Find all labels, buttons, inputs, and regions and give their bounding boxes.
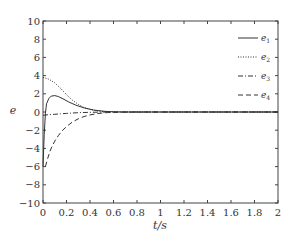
series-e1-line [43,96,278,167]
y-tick-label: −6 [25,161,40,172]
y-tick-label: −2 [25,125,40,136]
series-e4-line [45,112,278,167]
y-tick-label: 2 [34,88,40,99]
y-axis-label: e [10,104,17,117]
x-tick-label: 0 [40,207,46,218]
legend-label-e3: e3 [261,71,270,82]
x-tick-label: 1.6 [223,207,239,218]
y-tick-label: 0 [34,107,40,118]
legend: e1e2e3e4 [238,33,270,101]
y-tick-label: −4 [25,143,40,154]
legend-label-e2: e2 [261,52,270,63]
x-tick-label: 1.8 [247,207,263,218]
x-tick-label: 2 [275,207,281,218]
x-tick-label: 1 [157,207,163,218]
series-layer [43,77,278,166]
legend-label-e1: e1 [261,33,270,44]
x-axis-label: t/s [153,219,167,232]
x-tick-label: 0.4 [82,207,98,218]
x-tick-label: 0.8 [129,207,145,218]
x-tick-label: 0.2 [59,207,75,218]
line-chart: 00.20.40.60.811.21.41.61.82 1086420−2−4−… [0,0,291,244]
x-tick-label: 1.2 [176,207,192,218]
y-tick-label: 10 [27,16,40,27]
x-tick-label: 1.4 [200,207,216,218]
legend-label-e4: e4 [261,90,270,101]
y-tick-label: −8 [25,179,40,190]
x-tick-label: 0.6 [106,207,122,218]
y-tick-label: 8 [34,34,40,45]
y-tick-label: 4 [34,70,40,81]
y-tick-label: 6 [34,52,40,63]
y-tick-label: −10 [19,198,40,209]
